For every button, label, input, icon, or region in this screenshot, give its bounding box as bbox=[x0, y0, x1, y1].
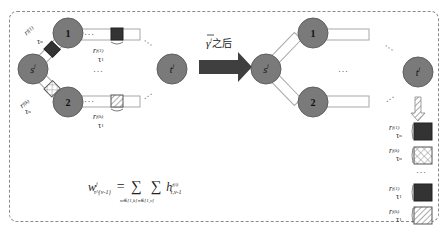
packet-dark bbox=[111, 28, 123, 40]
node-source-left-label: sj bbox=[30, 63, 36, 74]
tau-label-2out: τ1 bbox=[98, 122, 104, 130]
node-dest-right-label: tj bbox=[416, 66, 420, 77]
node-2-right-label: 2 bbox=[311, 97, 316, 108]
down-arrow-icon bbox=[411, 97, 425, 121]
node-1-right-label: 1 bbox=[311, 28, 316, 39]
stack-packet-1 bbox=[414, 123, 432, 140]
right-arrow-icon bbox=[199, 52, 252, 82]
tau-label-s2: τn bbox=[25, 108, 31, 116]
ellipsis: ··· bbox=[84, 29, 95, 39]
node-source-right-label: sj bbox=[263, 63, 269, 74]
packet-label-2out: rf(k) bbox=[93, 113, 103, 121]
node-dest-left-label: tj bbox=[170, 63, 174, 74]
ellipsis: ··· bbox=[338, 66, 349, 76]
stack-tau-4: τ1 bbox=[396, 216, 402, 224]
ellipsis: ··· bbox=[416, 167, 427, 177]
transition-label: γj之后 bbox=[206, 35, 232, 50]
tau-label-s1: τn bbox=[37, 38, 43, 46]
stack-packet-3 bbox=[414, 184, 432, 201]
stack-tau-3: τ1 bbox=[396, 193, 402, 201]
stack-packet-4 bbox=[414, 207, 432, 224]
packet-label-1out: rf(1) bbox=[93, 47, 103, 55]
stack-tau-2: τn bbox=[396, 155, 402, 163]
node-2-left-label: 2 bbox=[66, 97, 71, 108]
ellipsis: ··· bbox=[93, 66, 104, 76]
ellipsis: ··· bbox=[84, 96, 95, 106]
right-network bbox=[251, 18, 433, 224]
packet-diagonal bbox=[111, 95, 123, 107]
stack-packet-2 bbox=[414, 147, 432, 164]
tau-label-1out: τ1 bbox=[98, 56, 104, 64]
formula: wjτ^{v-1} = ∑ ∑ hf(i)τ,v-1 m∈[1,k] n∈[1,… bbox=[88, 178, 182, 195]
stack-tau-1: τn bbox=[396, 132, 402, 140]
node-1-left-label: 1 bbox=[66, 28, 71, 39]
